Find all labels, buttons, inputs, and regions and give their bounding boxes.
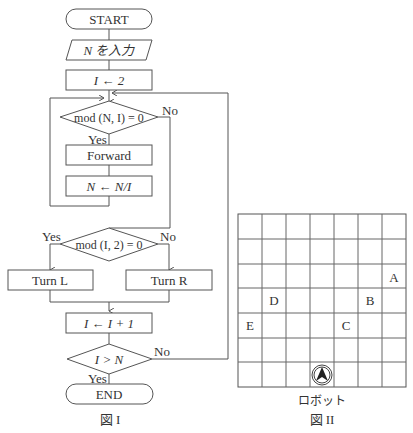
- robot-label: ロボット: [298, 394, 346, 408]
- marker-a: A: [389, 270, 399, 285]
- marker-b: B: [366, 293, 375, 308]
- decision-mod-n-label: mod (N, I) = 0: [74, 111, 144, 125]
- turn-right-label: Turn R: [151, 273, 188, 288]
- divide-label: N ← N/I: [86, 179, 132, 194]
- flowchart: START N を入力 I ← 2 mod (N, I) = 0 No Yes …: [8, 9, 228, 427]
- decision-gt-label: I > N: [94, 352, 125, 367]
- marker-c: C: [342, 318, 351, 333]
- start-label: START: [89, 12, 128, 27]
- increment-label: I ← I + 1: [83, 316, 134, 331]
- decision-mod-2-label: mod (I, 2) = 0: [75, 238, 142, 252]
- input-label: N を入力: [83, 43, 136, 58]
- decision-gt-no: No: [154, 344, 170, 359]
- decision-mod-2-yes: Yes: [42, 229, 61, 244]
- end-label: END: [96, 387, 123, 402]
- forward-label: Forward: [87, 148, 132, 163]
- init-label: I ← 2: [93, 73, 125, 88]
- figure1-caption: 図 I: [100, 412, 121, 427]
- marker-d: D: [269, 293, 278, 308]
- robot-icon: [312, 365, 332, 385]
- figure2-caption: 図 II: [310, 412, 335, 427]
- decision-mod-n-no: No: [162, 103, 178, 118]
- robot-grid: A B C D E ロボット 図 II: [238, 214, 406, 427]
- turn-left-label: Turn L: [32, 273, 68, 288]
- figure-canvas: START N を入力 I ← 2 mod (N, I) = 0 No Yes …: [0, 0, 413, 433]
- decision-mod-2-no: No: [160, 229, 176, 244]
- marker-e: E: [246, 318, 254, 333]
